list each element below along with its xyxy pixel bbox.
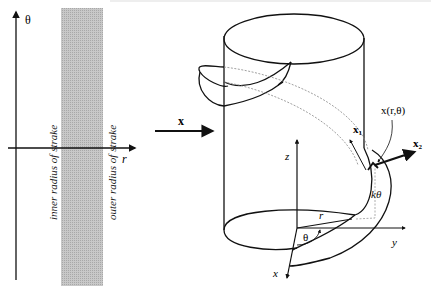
coordinate-axes: [287, 120, 414, 278]
x-axis-label: x: [272, 267, 278, 279]
flow-arrow-label: x: [178, 114, 184, 128]
r-label: r: [319, 209, 324, 221]
parameter-domain-plot: θ r inner radius of strake outer radius …: [8, 8, 135, 286]
theta-axis-label: θ: [25, 13, 31, 27]
strake-band: [61, 8, 103, 286]
x2-vector: [375, 152, 414, 165]
x2-label: x2: [413, 137, 423, 151]
theta-label: θ: [303, 231, 308, 243]
theta-arc: [297, 230, 320, 245]
x1-label: x1: [353, 123, 363, 137]
point-label: x(r,θ): [381, 104, 405, 117]
r-axis-label: r: [122, 152, 127, 166]
flow-arrow: x: [155, 114, 212, 131]
ktheta-label: kθ: [371, 188, 382, 200]
z-axis-label: z: [284, 150, 290, 162]
outer-radius-label: outer radius of strake: [106, 125, 118, 220]
y-axis-label: y: [391, 236, 397, 248]
strake-diagram: θ r inner radius of strake outer radius …: [0, 0, 431, 291]
x-axis: [287, 228, 297, 278]
inner-radius-label: inner radius of strake: [47, 125, 59, 220]
